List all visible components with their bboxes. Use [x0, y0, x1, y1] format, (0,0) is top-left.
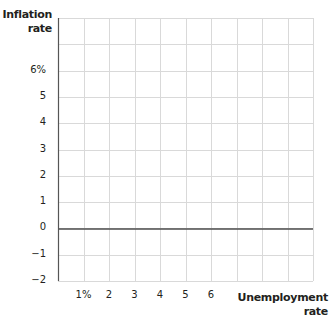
- y-tick-label: 4: [0, 116, 46, 127]
- y-tick-label: 6%: [0, 64, 46, 75]
- x-axis-title: Unemployment rate: [238, 291, 328, 319]
- y-axis-title-line2: rate: [0, 22, 52, 36]
- x-tick-label: 6: [196, 289, 226, 300]
- y-axis-title-line1: Inflation: [0, 8, 52, 22]
- grid-lines: [58, 18, 314, 282]
- x-axis-title-line2: rate: [238, 305, 328, 319]
- x-axis-title-line1: Unemployment: [238, 291, 328, 305]
- y-tick-label: 0: [0, 221, 46, 232]
- y-tick-label: 1: [0, 195, 46, 206]
- y-tick-label: −2: [0, 274, 46, 285]
- y-tick-label: 5: [0, 90, 46, 101]
- plot-area: [0, 0, 330, 323]
- y-tick-label: −1: [0, 248, 46, 259]
- y-axis-title: Inflation rate: [0, 8, 52, 36]
- y-tick-label: 3: [0, 143, 46, 154]
- y-tick-label: 2: [0, 169, 46, 180]
